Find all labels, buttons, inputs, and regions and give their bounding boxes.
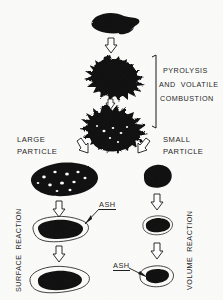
porous-char-particle [31, 163, 98, 197]
pyrolysis-label-line2: AND VOLATILE [159, 80, 219, 89]
pyrolysis-label-line1: PYROLYSIS [163, 66, 208, 75]
combustion-diagram-figure: PYROLYSIS AND VOLATILE COMBUSTION LARGE … [0, 0, 223, 300]
small-char-particle [144, 165, 172, 188]
ash-pointer-left [85, 209, 99, 224]
ash-label-right: ASH [113, 261, 130, 271]
large-particle-label-line1: LARGE [17, 135, 45, 144]
small-particle-label-line1: SMALL [163, 135, 190, 144]
raw-coal-particle [92, 13, 140, 34]
down-arrow-right-1 [151, 194, 163, 210]
pyrolysis-label-line3: COMBUSTION [160, 94, 214, 103]
small-particle-label-line2: PARTICLE [163, 147, 203, 156]
pyrolysis-bracket [152, 55, 156, 128]
large-particle-label-line2: PARTICLE [17, 147, 57, 156]
shrinking-core-with-ash-layer [33, 216, 89, 241]
small-reacting-particle [143, 216, 173, 235]
volume-reaction-label: VOLUME REACTION [185, 211, 194, 291]
down-arrow-right-2 [151, 243, 163, 259]
ash-label-left: ASH [99, 200, 116, 210]
diagonal-arrow-left [77, 138, 88, 153]
down-arrow-left-1 [53, 201, 65, 217]
burnt-out-ash-particle-left [30, 266, 90, 292]
devolatilizing-particle-early [84, 55, 145, 102]
down-arrow-top [105, 38, 117, 53]
down-arrow-left-2 [53, 246, 65, 262]
surface-reaction-label: SURFACE REACTION [14, 208, 23, 292]
